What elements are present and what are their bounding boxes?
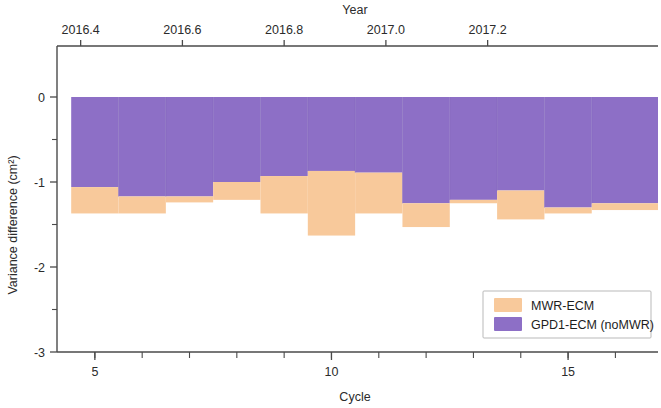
x-tick-label: 10: [325, 365, 339, 379]
bar-mwr-ecm: [402, 203, 449, 227]
y-tick-label: 0: [38, 91, 45, 105]
chart-figure: 0-1-2-3 51015 2016.42016.62016.82017.020…: [0, 0, 661, 408]
y-tick-label: -1: [34, 176, 45, 190]
bar-mwr-ecm: [71, 187, 118, 213]
top-tick-label: 2016.8: [265, 23, 303, 37]
legend-label-mwr-ecm: MWR-ECM: [531, 299, 594, 313]
bar-mwr-ecm: [166, 196, 213, 202]
variance-difference-bar-chart: 0-1-2-3 51015 2016.42016.62016.82017.020…: [0, 0, 661, 408]
bar-gpd1-ecm-nomwr: [119, 97, 166, 196]
legend-swatch-gpd1-ecm-nomwr: [494, 317, 522, 331]
top-tick-label: 2016.6: [163, 23, 201, 37]
y-tick-label: -3: [34, 346, 45, 360]
top-tick-label: 2016.4: [62, 23, 100, 37]
bar-mwr-ecm: [497, 191, 544, 220]
bar-gpd1-ecm-nomwr: [260, 97, 307, 176]
bar-mwr-ecm: [260, 176, 307, 213]
legend-swatch-mwr-ecm: [494, 298, 522, 312]
bar-mwr-ecm: [119, 196, 166, 213]
bar-mwr-ecm: [450, 200, 497, 203]
bar-gpd1-ecm-nomwr: [592, 97, 658, 203]
bar-mwr-ecm: [355, 173, 402, 214]
top-tick-label: 2017.2: [469, 23, 507, 37]
bar-mwr-ecm: [213, 182, 260, 200]
legend-label-gpd1-ecm-nomwr: GPD1-ECM (noMWR): [531, 318, 654, 332]
bar-mwr-ecm: [544, 208, 591, 214]
bar-gpd1-ecm-nomwr: [402, 97, 449, 203]
x-axis-title: Cycle: [339, 390, 370, 404]
y-axis-title: Variance difference (cm²): [6, 155, 20, 294]
x-tick-label: 15: [561, 365, 575, 379]
bar-gpd1-ecm-nomwr: [71, 97, 118, 187]
bar-gpd1-ecm-nomwr: [497, 97, 544, 191]
top-axis-title: Year: [342, 3, 367, 17]
bar-gpd1-ecm-nomwr: [355, 97, 402, 173]
top-tick-label: 2017.0: [367, 23, 405, 37]
bar-gpd1-ecm-nomwr: [213, 97, 260, 182]
bar-gpd1-ecm-nomwr: [166, 97, 213, 196]
chart-legend: MWR-ECM GPD1-ECM (noMWR): [483, 291, 654, 338]
bar-mwr-ecm: [308, 171, 355, 236]
bar-gpd1-ecm-nomwr: [450, 97, 497, 200]
x-tick-label: 5: [91, 365, 98, 379]
y-tick-label: -2: [34, 261, 45, 275]
bar-gpd1-ecm-nomwr: [544, 97, 591, 208]
bar-gpd1-ecm-nomwr: [308, 97, 355, 171]
bar-mwr-ecm: [592, 203, 658, 210]
